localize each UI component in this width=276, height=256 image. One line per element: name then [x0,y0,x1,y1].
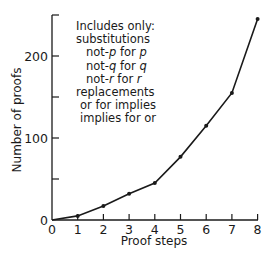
annotation-line: implies for or [76,112,156,125]
data-point [101,204,105,208]
y-tick-label: 100 [24,131,48,146]
y-tick-label: 200 [24,49,48,64]
data-point [153,181,157,185]
x-tick-label: 6 [202,222,210,237]
data-point [76,214,80,218]
y-tick-label: 0 [40,213,48,228]
x-axis-label: Proof steps [121,234,188,248]
annotation-box: Includes only: substitutions not-p for p… [76,20,156,126]
x-tick-label: 0 [48,222,56,237]
x-tick-label: 7 [228,222,236,237]
annotation-line: not-r for r [76,73,156,86]
data-point [256,17,260,21]
y-axis-label: Number of proofs [10,68,24,173]
data-point [204,124,208,128]
x-tick-label: 2 [99,222,107,237]
x-tick-label: 8 [254,222,262,237]
x-tick-label: 1 [74,222,82,237]
data-point [230,91,234,95]
data-point [179,155,183,159]
y-ticks: 0100200 [24,15,59,228]
data-point [127,192,131,196]
